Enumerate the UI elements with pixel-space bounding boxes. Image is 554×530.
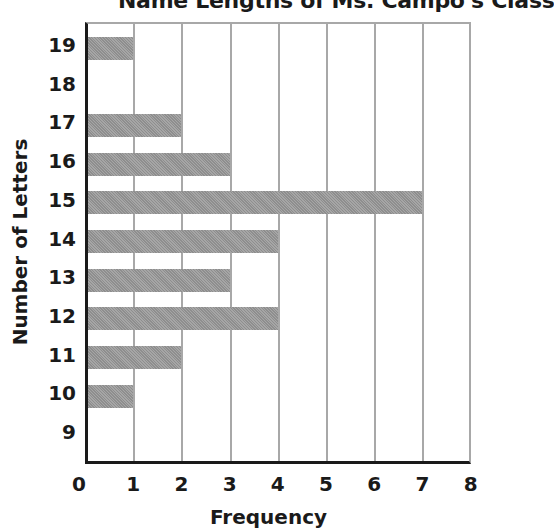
x-tick-label: 1 (118, 472, 148, 496)
bar-13 (88, 269, 230, 292)
x-tick-label: 8 (456, 472, 486, 496)
bar-19 (88, 37, 133, 60)
bar-11 (88, 346, 181, 369)
x-tick-label: 7 (407, 472, 437, 496)
x-axis-label: Frequency (0, 505, 482, 529)
y-tick-label: 18 (36, 72, 76, 96)
grid-line (422, 24, 424, 461)
x-tick-label: 4 (263, 472, 293, 496)
grid-line (278, 24, 280, 461)
y-tick-label: 16 (36, 149, 76, 173)
chart-title: Name Lengths of Ms. Campo's Class (118, 0, 554, 13)
y-tick-label: 19 (36, 33, 76, 57)
y-tick-label: 12 (36, 304, 76, 328)
x-tick-label: 2 (166, 472, 196, 496)
y-tick-label: 17 (36, 110, 76, 134)
x-tick-label: 3 (215, 472, 245, 496)
y-tick-label: 14 (36, 227, 76, 251)
y-axis-label: Number of Letters (8, 132, 32, 352)
plot-area (85, 22, 471, 464)
y-tick-label: 9 (36, 420, 76, 444)
bar-14 (88, 230, 278, 253)
x-tick-label: 0 (64, 472, 94, 496)
x-tick-label: 6 (359, 472, 389, 496)
bar-17 (88, 114, 181, 137)
x-tick-label: 5 (311, 472, 341, 496)
bar-15 (88, 191, 422, 214)
grid-line (374, 24, 376, 461)
bar-12 (88, 307, 278, 330)
grid-line (326, 24, 328, 461)
bar-16 (88, 153, 230, 176)
y-tick-label: 11 (36, 343, 76, 367)
y-tick-label: 15 (36, 188, 76, 212)
bar-10 (88, 385, 133, 408)
y-tick-label: 10 (36, 381, 76, 405)
y-tick-label: 13 (36, 265, 76, 289)
